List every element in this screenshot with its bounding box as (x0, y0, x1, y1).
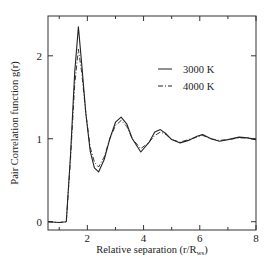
y-tick-label: 1 (37, 133, 43, 145)
x-tick-label: 2 (85, 232, 91, 244)
x-tick-label: 6 (197, 232, 203, 244)
y-tick-label: 0 (37, 216, 43, 228)
x-tick-label: 4 (141, 232, 147, 244)
x-tick-label: 8 (253, 232, 259, 244)
pair-correlation-chart: 2468012Relative separation (r/Rws)Pair C… (0, 0, 273, 266)
series-line-4000K (48, 49, 256, 222)
x-axis-label: Relative separation (r/Rws) (96, 244, 208, 257)
legend-label: 3000 K (183, 64, 215, 75)
y-tick-label: 2 (37, 50, 43, 62)
y-axis-label: Pair Correlation function g(r) (9, 61, 21, 185)
series-line-3000K (48, 27, 256, 223)
legend-label: 4000 K (183, 81, 215, 92)
plot-frame (48, 16, 256, 230)
